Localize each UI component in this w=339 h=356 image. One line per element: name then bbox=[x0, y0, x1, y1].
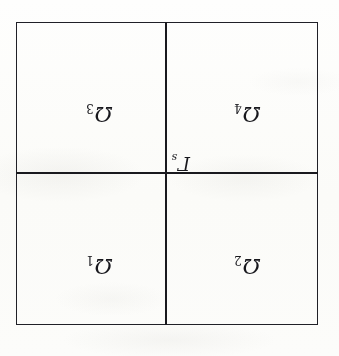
omega-4-subscript: 4 bbox=[234, 101, 242, 115]
region-label-omega-2: Ω2 bbox=[234, 254, 260, 276]
horizontal-divider-line bbox=[16, 172, 318, 174]
omega-2-subscript: 2 bbox=[234, 253, 242, 267]
region-label-omega-4: Ω4 bbox=[234, 102, 260, 124]
omega-3-symbol: Ω bbox=[94, 102, 112, 126]
interface-label-gamma-s: Γs bbox=[172, 152, 190, 172]
omega-3-subscript: 3 bbox=[86, 101, 94, 115]
omega-1-symbol: Ω bbox=[94, 254, 112, 278]
region-label-omega-1: Ω1 bbox=[86, 254, 112, 276]
omega-4-symbol: Ω bbox=[242, 102, 260, 126]
region-label-omega-3: Ω3 bbox=[86, 102, 112, 124]
omega-1-subscript: 1 bbox=[86, 253, 94, 267]
figure-page: Ω1 Ω2 Ω3 Ω4 Γs bbox=[0, 0, 339, 356]
gamma-s-subscript: s bbox=[172, 151, 178, 164]
gamma-s-symbol: Γ bbox=[178, 153, 191, 174]
omega-2-symbol: Ω bbox=[242, 254, 260, 278]
figure-stage-rotated: Ω1 Ω2 Ω3 Ω4 Γs bbox=[0, 0, 339, 356]
